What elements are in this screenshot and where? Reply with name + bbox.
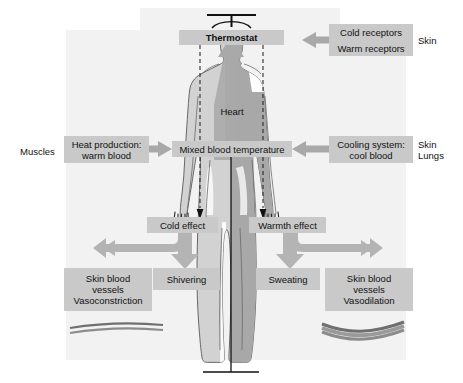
thermostat-box[interactable]: Thermostat (179, 30, 284, 45)
arrow-up-to-thermostat (218, 36, 244, 150)
heat-production-box[interactable]: Heat production: warm blood (64, 136, 149, 163)
sweating-box[interactable]: Sweating (256, 268, 320, 290)
narrow-blood-vessel-icon (70, 324, 163, 333)
receptors-box[interactable]: Cold receptors (329, 24, 413, 40)
mixed-blood-temperature-box[interactable]: Mixed blood temperature (172, 141, 292, 157)
arrow-warmth-effect-to-vasodilation (290, 232, 383, 258)
vasoconstriction-box[interactable]: Skin blood vessels Vasoconstriction (64, 268, 152, 311)
vasodilation-box[interactable]: Skin blood vessels Vasodilation (325, 268, 413, 311)
cooling-system-box[interactable]: Cooling system: cool blood (329, 136, 413, 163)
warm-receptors-box[interactable]: Warm receptors (329, 40, 413, 56)
shivering-box[interactable]: Shivering (153, 268, 220, 290)
cold-effect-box[interactable]: Cold effect (147, 217, 218, 233)
wide-blood-vessel-icon (322, 322, 404, 339)
diagram-canvas: Hypothalamus Thermostat Cold receptors W… (0, 0, 463, 383)
arrow-layer (0, 0, 463, 383)
warmth-effect-box[interactable]: Warmth effect (249, 217, 326, 233)
arrow-cooling-system-to-core (292, 141, 330, 157)
heart-label: Heart (206, 106, 258, 117)
